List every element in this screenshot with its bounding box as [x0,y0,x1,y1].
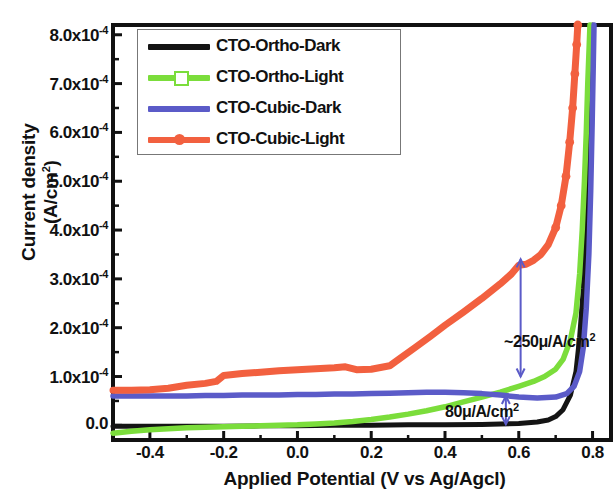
legend-line [148,44,210,50]
series-marker [565,138,574,147]
legend-marker-open-square [174,71,189,86]
legend-swatch [148,103,210,113]
series-marker [573,21,582,30]
annotation-80: 80μ/A/cm2 [445,401,519,421]
annotation-exponent: 2 [589,331,595,343]
legend-label: CTO-Cubic-Light [216,129,344,149]
legend-line [148,106,210,112]
annotation-text: 80μ/A/cm [445,403,513,420]
legend-marker-filled-circle [174,134,185,145]
chart-figure: Current density (A/cm2) 0.01.0x10-42.0x1… [0,0,616,494]
legend-swatch [148,134,210,144]
legend-item-1: CTO-Ortho-Light [138,61,400,92]
legend-item-0: CTO-Ortho-Dark [138,30,400,61]
legend-item-2: CTO-Cubic-Dark [138,92,400,123]
annotation-250: ~250μ/A/cm2 [504,331,595,351]
legend: CTO-Ortho-DarkCTO-Ortho-LightCTO-Cubic-D… [137,29,401,155]
legend-swatch [148,72,210,82]
series-marker [551,223,560,232]
series-marker [557,201,566,210]
annotation-exponent: 2 [513,401,519,413]
series-marker [570,69,579,78]
legend-label: CTO-Cubic-Dark [216,98,341,118]
legend-swatch [148,41,210,51]
legend-label: CTO-Ortho-Light [216,67,343,87]
annotation-text: ~250μ/A/cm [504,334,589,351]
legend-label: CTO-Ortho-Dark [216,36,340,56]
series-marker [572,40,581,49]
series-marker [568,104,577,113]
legend-item-3: CTO-Cubic-Light [138,123,400,154]
series-marker [562,172,571,181]
